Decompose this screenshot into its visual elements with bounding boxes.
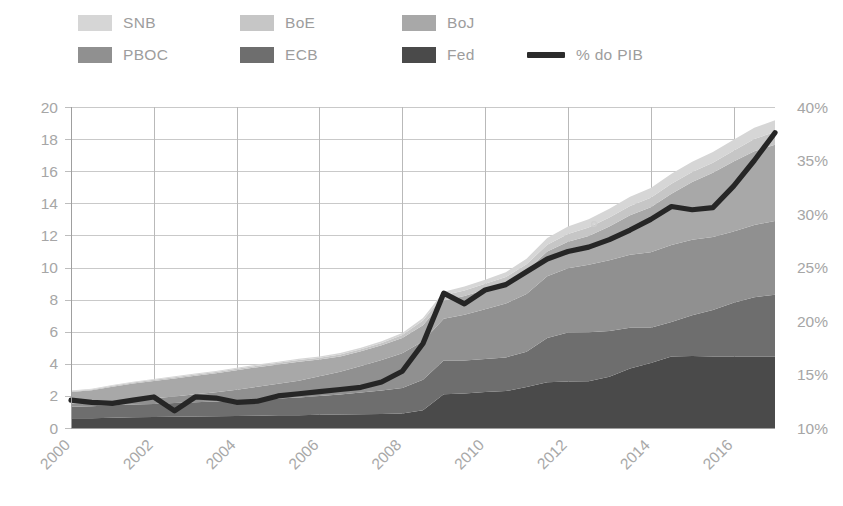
- ytick-label-left: 20: [41, 99, 59, 116]
- xtick-label: 2016: [699, 436, 735, 472]
- xtick-label: 2004: [202, 436, 239, 473]
- xtick-label: 2002: [120, 436, 156, 472]
- ytick-label-left: 14: [41, 195, 59, 212]
- xtick-label: 2010: [451, 436, 488, 473]
- xtick-label: 2014: [616, 436, 653, 473]
- stacked-area-chart: 0246810121416182010%15%20%25%30%35%40%20…: [0, 0, 843, 506]
- ytick-label-left: 10: [41, 259, 59, 276]
- ytick-label-left: 16: [41, 163, 58, 180]
- xtick-label: 2008: [368, 436, 404, 472]
- xtick-label: 2006: [285, 436, 321, 472]
- ytick-label-left: 4: [49, 355, 58, 372]
- ytick-label-left: 18: [41, 131, 58, 148]
- xtick-label: 2012: [534, 436, 570, 472]
- ytick-label-left: 8: [49, 291, 58, 308]
- ytick-label-left: 6: [49, 323, 58, 340]
- ytick-label-right: 20%: [797, 313, 828, 330]
- xtick-label: 2000: [37, 436, 74, 473]
- ytick-label-right: 15%: [797, 366, 828, 383]
- ytick-label-left: 12: [41, 227, 58, 244]
- areas-layer: [71, 120, 775, 428]
- ytick-label-right: 10%: [797, 420, 828, 437]
- ytick-label-right: 25%: [797, 259, 828, 276]
- ytick-label-left: 0: [49, 420, 58, 437]
- ytick-label-right: 30%: [797, 206, 828, 223]
- chart-plot-area: 0246810121416182010%15%20%25%30%35%40%20…: [0, 0, 843, 506]
- ytick-label-right: 40%: [797, 99, 828, 116]
- ytick-label-right: 35%: [797, 152, 828, 169]
- ytick-label-left: 2: [49, 387, 58, 404]
